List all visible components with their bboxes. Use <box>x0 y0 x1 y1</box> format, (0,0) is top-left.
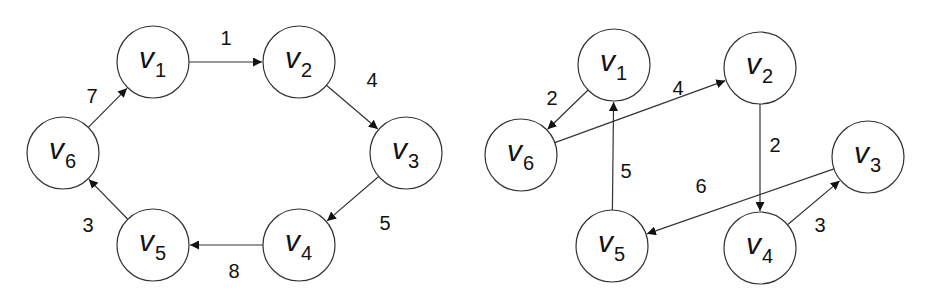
arrow-icon <box>326 85 377 129</box>
edge-v3-to-v4 <box>327 176 379 220</box>
edge-weight-label: 3 <box>82 214 93 236</box>
edge-v5-to-v1 <box>612 102 613 210</box>
edge-weight-label: 3 <box>814 214 825 236</box>
node-v2: v2 <box>263 26 335 98</box>
edge-v5-to-v6 <box>89 179 128 219</box>
edge-weight-label: 6 <box>695 175 706 197</box>
arrow-icon <box>612 102 613 210</box>
node-v3: v3 <box>832 121 904 193</box>
node-v6: v6 <box>27 117 99 189</box>
node-v5: v5 <box>576 210 648 282</box>
graph-diagram: v1v2v3v4v5v6v1v2v3v4v5v6 145837245263 <box>0 0 929 305</box>
node-v1: v1 <box>578 29 650 101</box>
node-v4: v4 <box>724 212 796 284</box>
node-v1: v1 <box>117 26 189 98</box>
edge-weight-label: 7 <box>86 85 97 107</box>
edge-weight-label: 5 <box>379 212 390 234</box>
arrow-icon <box>89 179 128 219</box>
edge-v2-to-v3 <box>326 85 377 129</box>
edge-weight-label: 4 <box>672 77 683 99</box>
edge-weight-label: 8 <box>228 260 239 282</box>
edge-weight-label: 4 <box>366 69 377 91</box>
edge-weight-label: 1 <box>220 27 231 49</box>
edge-weight-label: 5 <box>620 160 631 182</box>
node-v6: v6 <box>485 119 557 191</box>
node-v2: v2 <box>724 32 796 104</box>
node-v5: v5 <box>117 209 189 281</box>
node-v4: v4 <box>263 209 335 281</box>
edge-weight-label: 2 <box>546 87 557 109</box>
edge-weight-label: 2 <box>769 134 780 156</box>
diagram-canvas: v1v2v3v4v5v6v1v2v3v4v5v6 145837245263 <box>0 0 929 305</box>
node-v3: v3 <box>370 117 442 189</box>
arrow-icon <box>327 176 379 220</box>
